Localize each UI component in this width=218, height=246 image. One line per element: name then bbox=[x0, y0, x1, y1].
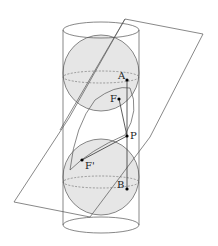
point-B bbox=[125, 187, 128, 190]
point-A bbox=[125, 78, 128, 81]
segment-FP bbox=[119, 99, 127, 136]
dandelin-figure: A F P F' B bbox=[0, 0, 218, 246]
label-F-prime: F' bbox=[85, 160, 95, 171]
label-A: A bbox=[117, 70, 126, 81]
cylinder-bottom bbox=[63, 217, 139, 233]
label-P: P bbox=[130, 130, 137, 141]
lower-sphere bbox=[63, 139, 139, 215]
point-P bbox=[125, 134, 128, 137]
label-B: B bbox=[117, 179, 124, 190]
point-F-prime bbox=[80, 158, 83, 161]
label-F: F bbox=[110, 93, 117, 104]
diagram: A F P F' B bbox=[0, 0, 218, 246]
point-F bbox=[117, 97, 120, 100]
